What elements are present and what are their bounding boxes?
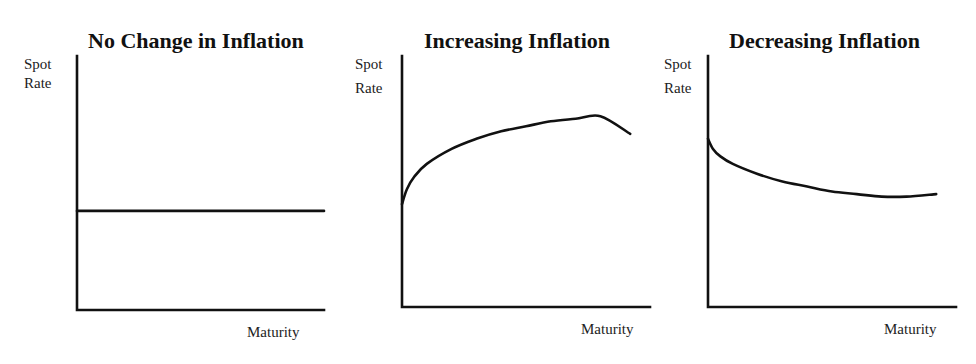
axes xyxy=(708,56,956,307)
x-axis-label: Maturity xyxy=(247,324,300,340)
axes xyxy=(402,56,650,307)
panel-increasing: Increasing Inflation Spot Rate Maturity xyxy=(355,28,650,337)
spot-rate-curve xyxy=(708,139,936,197)
y-axis-label-line1: Spot xyxy=(355,56,383,72)
x-axis-label: Maturity xyxy=(884,321,937,337)
spot-rate-curve xyxy=(402,115,630,204)
chart-title: No Change in Inflation xyxy=(88,28,304,53)
y-axis-label-line2: Rate xyxy=(24,75,52,91)
chart-title: Decreasing Inflation xyxy=(729,28,920,53)
panel-decreasing: Decreasing Inflation Spot Rate Maturity xyxy=(664,28,956,337)
y-axis-label-line2: Rate xyxy=(664,80,692,96)
y-axis-label-line1: Spot xyxy=(24,56,52,72)
axes xyxy=(77,56,324,310)
x-axis-label: Maturity xyxy=(581,321,634,337)
chart-figure: No Change in Inflation Spot Rate Maturit… xyxy=(0,0,976,364)
panel-no-change: No Change in Inflation Spot Rate Maturit… xyxy=(24,28,324,340)
y-axis-label-line1: Spot xyxy=(664,56,692,72)
y-axis-label-line2: Rate xyxy=(355,80,383,96)
chart-title: Increasing Inflation xyxy=(424,28,610,53)
